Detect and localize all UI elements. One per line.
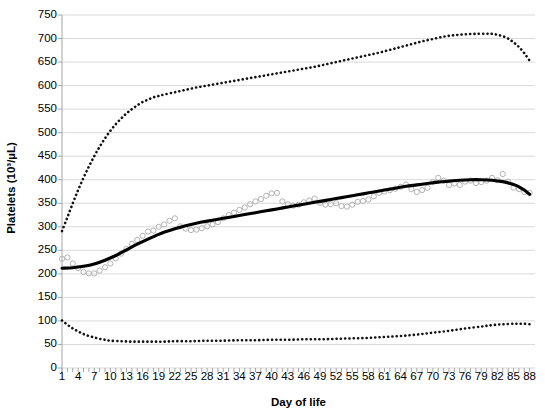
- scatter-marker: [425, 185, 430, 190]
- scatter-marker: [248, 202, 253, 207]
- scatter-marker: [414, 189, 419, 194]
- platelet-reference-chart: Platelets (10³/µL) 050100150200250300350…: [0, 0, 545, 417]
- scatter-marker: [274, 190, 279, 195]
- x-axis-tick-labels: 1471013161922252831343740434649525558616…: [0, 371, 545, 391]
- x-tick-label: 22: [168, 371, 181, 383]
- scatter-marker: [210, 222, 215, 227]
- x-axis-title: Day of life: [62, 396, 535, 408]
- x-tick-label: 58: [362, 371, 375, 383]
- grid-lines: [62, 15, 535, 368]
- x-tick-label: 88: [523, 371, 536, 383]
- scatter-marker: [457, 182, 462, 187]
- scatter-marker: [269, 191, 274, 196]
- x-tick-label: 49: [314, 371, 327, 383]
- scatter-marker: [231, 210, 236, 215]
- series-median-trend-curve: [62, 180, 530, 269]
- x-tick-label: 73: [443, 371, 456, 383]
- axis-lines: [58, 15, 62, 372]
- scatter-marker: [366, 197, 371, 202]
- series-path: [62, 180, 530, 269]
- x-tick-label: 76: [459, 371, 472, 383]
- scatter-marker: [140, 233, 145, 238]
- scatter-marker: [264, 193, 269, 198]
- scatter-marker: [97, 268, 102, 273]
- scatter-marker: [312, 196, 317, 201]
- x-tick-label: 19: [152, 371, 165, 383]
- scatter-marker: [344, 204, 349, 209]
- x-tick-label: 46: [297, 371, 310, 383]
- scatter-marker: [194, 227, 199, 232]
- scatter-marker: [188, 227, 193, 232]
- x-tick-label: 7: [91, 371, 97, 383]
- x-tick-label: 52: [330, 371, 343, 383]
- x-tick-label: 16: [136, 371, 149, 383]
- scatter-marker: [151, 228, 156, 233]
- scatter-marker: [237, 207, 242, 212]
- scatter-marker: [167, 218, 172, 223]
- x-tick-label: 61: [378, 371, 391, 383]
- series-observed-means-scatter: [59, 171, 532, 276]
- scatter-marker: [70, 261, 75, 266]
- x-tick-label: 25: [185, 371, 198, 383]
- x-tick-label: 43: [281, 371, 294, 383]
- x-tick-label: 55: [346, 371, 359, 383]
- x-tick-label: 82: [491, 371, 504, 383]
- x-tick-label: 37: [249, 371, 262, 383]
- scatter-marker: [339, 203, 344, 208]
- scatter-marker: [145, 229, 150, 234]
- plot-area: [0, 0, 545, 417]
- scatter-marker: [500, 171, 505, 176]
- scatter-marker: [102, 265, 107, 270]
- scatter-marker: [108, 261, 113, 266]
- scatter-marker: [258, 196, 263, 201]
- scatter-marker: [172, 216, 177, 221]
- x-tick-label: 85: [507, 371, 520, 383]
- x-tick-label: 40: [265, 371, 278, 383]
- x-tick-label: 1: [59, 371, 65, 383]
- x-tick-label: 31: [217, 371, 230, 383]
- x-tick-label: 70: [426, 371, 439, 383]
- x-tick-label: 13: [120, 371, 133, 383]
- scatter-marker: [446, 182, 451, 187]
- scatter-marker: [371, 194, 376, 199]
- x-tick-label: 34: [233, 371, 246, 383]
- series-lower-percentile-curve: [62, 320, 530, 341]
- series-path: [62, 320, 530, 341]
- scatter-marker: [65, 255, 70, 260]
- x-tick-label: 64: [394, 371, 407, 383]
- x-tick-label: 79: [475, 371, 488, 383]
- x-tick-label: 28: [201, 371, 214, 383]
- scatter-marker: [360, 198, 365, 203]
- x-tick-label: 67: [410, 371, 423, 383]
- scatter-marker: [420, 187, 425, 192]
- x-tick-label: 10: [104, 371, 117, 383]
- scatter-marker: [328, 202, 333, 207]
- scatter-marker: [162, 222, 167, 227]
- scatter-marker: [242, 205, 247, 210]
- x-tick-label: 4: [75, 371, 81, 383]
